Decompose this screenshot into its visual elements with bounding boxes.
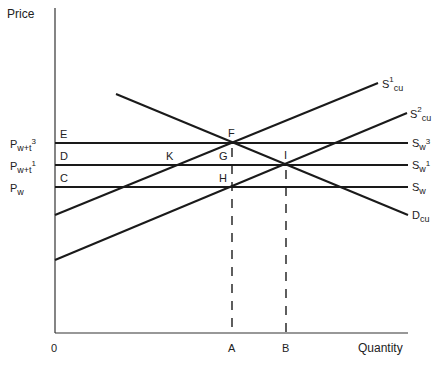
x-tick-b: B — [282, 342, 289, 354]
y-axis-title: Price — [7, 7, 35, 21]
label-sw3: Sw3 — [412, 137, 431, 152]
y-tick-pwt3: Pw+t3 — [10, 137, 37, 153]
y-tick-pwt1: Pw+t1 — [10, 159, 37, 175]
label-sw: Sw — [412, 181, 426, 196]
dcu-line — [116, 94, 408, 215]
point-k: K — [166, 150, 174, 162]
supply-demand-diagram: Price Quantity 0 A B Pw+t3 Pw+t1 Pw S1cu… — [0, 0, 443, 366]
point-d: D — [60, 150, 68, 162]
s1cu-line — [55, 83, 378, 215]
y-tick-pw: Pw — [10, 182, 24, 197]
point-f: F — [228, 127, 235, 139]
label-s2cu: S2cu — [410, 105, 431, 123]
x-tick-a: A — [228, 342, 236, 354]
label-dcu: Dcu — [412, 209, 429, 224]
x-axis-title: Quantity — [358, 341, 403, 355]
label-sw1: Sw1 — [412, 159, 431, 174]
label-s1cu: S1cu — [382, 75, 403, 93]
point-i: I — [284, 149, 287, 161]
point-g: G — [219, 150, 228, 162]
point-e: E — [60, 128, 67, 140]
point-h: H — [219, 172, 227, 184]
point-c: C — [60, 172, 68, 184]
origin-label: 0 — [51, 342, 57, 354]
